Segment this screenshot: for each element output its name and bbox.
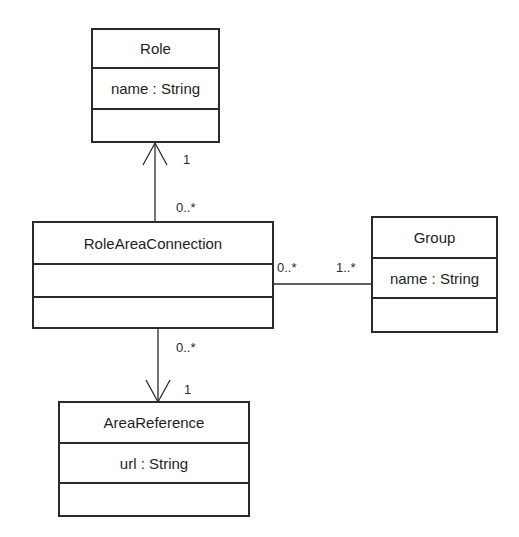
class-name: AreaReference bbox=[104, 414, 205, 431]
attribute: name : String bbox=[390, 270, 479, 287]
attributes-compartment bbox=[34, 263, 272, 296]
association-rac-to-areareference bbox=[146, 328, 170, 402]
class-role[interactable]: Role name : String bbox=[91, 28, 220, 143]
multiplicity-rac-group-end: 0..* bbox=[277, 261, 297, 274]
class-group[interactable]: Group name : String bbox=[371, 216, 498, 333]
attributes-compartment: name : String bbox=[93, 67, 218, 108]
class-name: Role bbox=[140, 40, 171, 57]
class-name: Group bbox=[414, 229, 456, 246]
multiplicity-role-end: 1 bbox=[183, 153, 190, 166]
association-rac-to-role bbox=[143, 143, 167, 222]
operations-compartment bbox=[93, 108, 218, 141]
multiplicity-area-end: 1 bbox=[184, 383, 191, 396]
class-name-compartment: AreaReference bbox=[60, 403, 248, 442]
operations-compartment bbox=[34, 296, 272, 327]
attribute: url : String bbox=[120, 455, 188, 472]
attribute: name : String bbox=[111, 80, 200, 97]
class-area-reference[interactable]: AreaReference url : String bbox=[58, 401, 250, 517]
class-name-compartment: Role bbox=[93, 30, 218, 67]
operations-compartment bbox=[373, 297, 496, 331]
class-name: RoleAreaConnection bbox=[84, 235, 222, 252]
attributes-compartment: url : String bbox=[60, 442, 248, 482]
multiplicity-rac-role-end: 0..* bbox=[176, 201, 196, 214]
class-name-compartment: RoleAreaConnection bbox=[34, 223, 272, 263]
class-name-compartment: Group bbox=[373, 218, 496, 257]
attributes-compartment: name : String bbox=[373, 257, 496, 297]
multiplicity-group-end: 1..* bbox=[336, 261, 356, 274]
class-role-area-connection[interactable]: RoleAreaConnection bbox=[32, 221, 274, 329]
multiplicity-rac-area-end: 0..* bbox=[176, 341, 196, 354]
operations-compartment bbox=[60, 482, 248, 515]
uml-diagram-canvas: Role name : String RoleAreaConnection Gr… bbox=[0, 0, 519, 537]
